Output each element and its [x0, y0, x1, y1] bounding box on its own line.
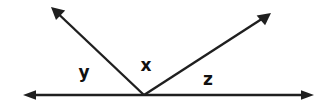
baseline-left-arrowhead-icon	[23, 90, 36, 100]
angle-diagram-canvas: y x z	[0, 0, 331, 108]
angle-label-z: z	[203, 69, 213, 89]
angle-diagram-figure: y x z	[0, 0, 331, 108]
baseline-right-arrowhead-icon	[301, 90, 314, 100]
angle-label-y: y	[78, 62, 89, 82]
upper-right-arrowhead-icon	[257, 13, 271, 25]
upper-left-ray	[51, 7, 144, 95]
baseline-left-ray	[23, 90, 144, 100]
upper-left-ray-line	[60, 15, 145, 95]
baseline-right-ray	[144, 90, 314, 100]
angle-label-x: x	[141, 55, 152, 75]
